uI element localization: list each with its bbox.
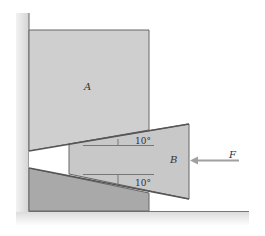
label-f: F <box>228 149 237 160</box>
label-bottom-angle: 10° <box>135 178 151 188</box>
label-a: A <box>83 81 91 92</box>
wedge-diagram: A B F 10° 10° <box>0 0 265 236</box>
wall <box>16 13 29 226</box>
label-top-angle: 10° <box>135 136 151 146</box>
arrowhead-icon <box>190 157 198 165</box>
floor <box>16 212 249 226</box>
label-b: B <box>169 154 177 165</box>
